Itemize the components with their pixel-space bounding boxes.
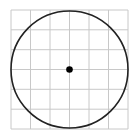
- circle-grid-diagram: [0, 0, 135, 136]
- center-point: [66, 66, 73, 73]
